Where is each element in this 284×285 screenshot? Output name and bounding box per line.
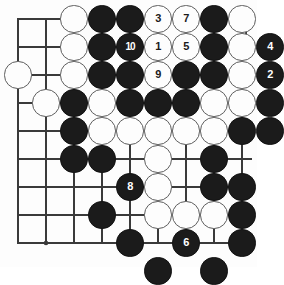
white-stone [88,89,115,116]
black-stone [228,201,255,228]
black-stone [228,117,255,144]
white-stone [200,117,227,144]
move-stone-2: 2 [256,61,283,88]
stone-move-number: 5 [183,41,189,52]
move-stone-4: 4 [256,33,283,60]
stone-move-number: 10 [125,41,134,51]
black-stone [88,201,115,228]
white-stone [200,89,227,116]
black-stone [144,257,171,284]
move-stone-7: 7 [172,5,199,32]
stone-move-number: 1 [155,41,161,52]
white-stone [144,145,171,172]
black-stone [144,89,171,116]
black-stone [60,117,87,144]
black-stone [200,173,227,200]
black-stone [88,5,115,32]
black-stone [60,145,87,172]
white-stone [144,173,171,200]
black-stone [200,5,227,32]
black-stone [116,5,143,32]
black-stone [60,89,87,116]
white-stone [228,61,255,88]
white-stone [172,117,199,144]
black-stone [116,89,143,116]
move-stone-5: 5 [172,33,199,60]
black-stone [228,173,255,200]
white-stone [144,201,171,228]
stone-move-number: 4 [267,41,273,52]
move-stone-10: 10 [116,33,143,60]
white-stone [228,33,255,60]
white-stone [144,117,171,144]
white-stone [200,201,227,228]
black-stone [200,257,227,284]
move-stone-6: 6 [172,229,199,256]
black-stone [228,229,255,256]
move-stone-8: 8 [116,173,143,200]
move-stone-3: 3 [144,5,171,32]
black-stone [200,145,227,172]
black-stone [88,61,115,88]
white-stone [32,89,59,116]
black-stone [116,61,143,88]
black-stone [172,89,199,116]
white-stone [60,61,87,88]
move-stone-1: 1 [144,33,171,60]
white-stone [88,117,115,144]
white-stone [172,201,199,228]
white-stone [116,117,143,144]
black-stone [88,145,115,172]
stone-move-number: 8 [127,181,133,192]
stone-move-number: 3 [155,13,161,24]
black-stone [256,89,283,116]
black-stone [88,33,115,60]
stone-move-number: 6 [183,237,189,248]
black-stone [200,61,227,88]
white-stone [60,33,87,60]
black-stone [116,229,143,256]
white-stone [228,89,255,116]
black-stone [172,61,199,88]
white-stone [60,5,87,32]
stone-move-number: 7 [183,13,189,24]
stone-move-number: 2 [267,69,273,80]
black-stone [200,33,227,60]
black-stone [256,117,283,144]
stone-move-number: 9 [155,69,161,80]
white-stone [4,61,31,88]
move-stone-9: 9 [144,61,171,88]
white-stone [228,5,255,32]
